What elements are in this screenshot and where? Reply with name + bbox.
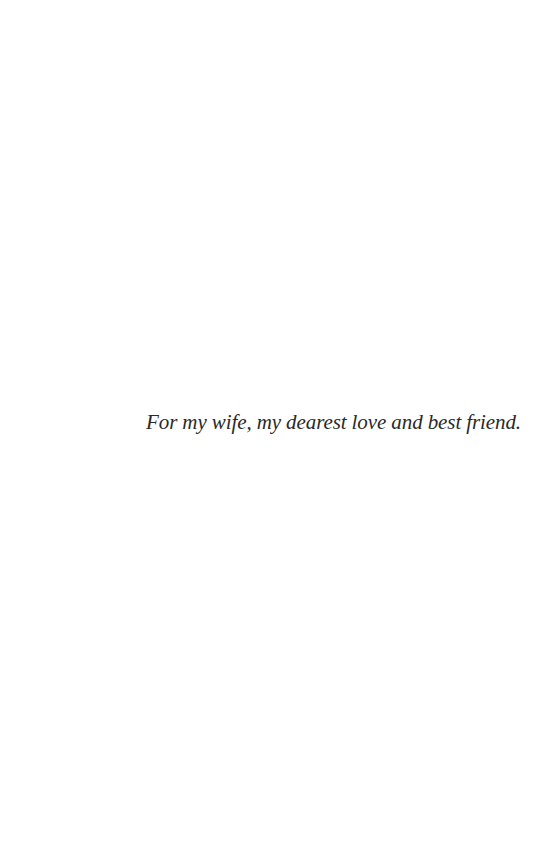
book-page: For my wife, my dearest love and best fr…	[0, 0, 543, 864]
dedication-text: For my wife, my dearest love and best fr…	[146, 410, 526, 435]
